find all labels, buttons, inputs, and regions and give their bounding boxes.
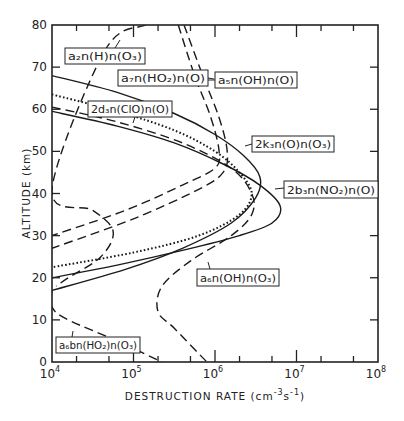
y-tick-label: 80 xyxy=(32,18,47,32)
label-a6: a₆n(OH)n(O₃) xyxy=(197,262,279,286)
label-b3: 2b₃n(NO₂)n(O) xyxy=(275,181,378,198)
y-tick-label: 70 xyxy=(32,60,47,74)
label-a2: a₂n(H)n(O₃) xyxy=(65,40,145,64)
svg-text:a₅n(OH)n(O): a₅n(OH)n(O) xyxy=(218,74,294,86)
x-tick-label: 104 xyxy=(40,365,60,381)
svg-text:a₂n(H)n(O₃): a₂n(H)n(O₃) xyxy=(68,50,142,62)
svg-text:a₇n(HO₂)n(O): a₇n(HO₂)n(O) xyxy=(121,72,205,84)
label-d3: 2d₃n(ClO)n(O) xyxy=(88,101,172,123)
svg-text:a₆bn(HO₂)n(O₃): a₆bn(HO₂)n(O₃) xyxy=(59,339,137,351)
curve-labels-group: a₂n(H)n(O₃)a₇n(HO₂)n(O)a₅n(OH)n(O)2d₃n(C… xyxy=(56,40,378,353)
label-a5: a₅n(OH)n(O) xyxy=(208,72,297,88)
y-tick-label: 10 xyxy=(32,313,47,327)
y-tick-label: 50 xyxy=(32,144,47,158)
y-tick-label: 40 xyxy=(32,187,47,201)
destruction-rate-chart: 01020304050607080104105106107108 a₂n(H)n… xyxy=(0,0,404,421)
svg-text:2d₃n(ClO)n(O): 2d₃n(ClO)n(O) xyxy=(91,103,169,115)
svg-text:a₆n(OH)n(O₃): a₆n(OH)n(O₃) xyxy=(200,272,276,284)
x-axis-title: DESTRUCTION RATE (cm-3s-1) xyxy=(125,388,305,402)
svg-text:2b₃n(NO₂)n(O): 2b₃n(NO₂)n(O) xyxy=(287,184,375,196)
ticks-group: 01020304050607080104105106107108 xyxy=(32,18,386,381)
x-tick-label: 105 xyxy=(121,365,141,381)
y-tick-label: 20 xyxy=(32,271,47,285)
label-a6b: a₆bn(HO₂)n(O₃) xyxy=(56,331,140,353)
label-a7: a₇n(HO₂)n(O) xyxy=(118,70,214,86)
label-k3: 2k₃n(O)n(O₃) xyxy=(245,136,334,152)
y-axis-title: ALTITUDE (km) xyxy=(20,148,32,239)
x-tick-label: 108 xyxy=(366,365,386,381)
svg-text:2k₃n(O)n(O₃): 2k₃n(O)n(O₃) xyxy=(255,138,331,150)
y-tick-label: 60 xyxy=(32,102,47,116)
y-tick-label: 30 xyxy=(32,229,47,243)
x-tick-label: 107 xyxy=(284,365,304,381)
curve-a6n-oh-n-o3- xyxy=(52,107,254,362)
x-tick-label: 106 xyxy=(203,365,223,381)
